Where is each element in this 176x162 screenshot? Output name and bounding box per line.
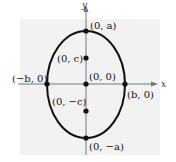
y-axis-label: y: [81, 0, 88, 10]
label-top-vertex: (0, a): [90, 20, 117, 31]
label-center: (0, 0): [89, 71, 116, 82]
label-bottom-vertex: (0, −a): [89, 141, 124, 152]
point-focus-lower: [83, 108, 88, 113]
point-right-covertex: [122, 81, 127, 86]
point-top-vertex: [83, 28, 88, 33]
point-bottom-vertex: [83, 135, 88, 140]
label-left-covertex: (−b, 0): [12, 73, 47, 84]
label-focus-upper: (0, c): [57, 53, 83, 64]
point-focus-upper: [83, 55, 88, 60]
point-center: [83, 81, 88, 86]
x-axis-label: x: [161, 79, 166, 89]
label-right-covertex: (b, 0): [127, 89, 154, 100]
label-focus-lower: (0, −c): [52, 96, 87, 107]
ellipse-diagram: x y (0, a) (0, c) (0, 0) (−b, 0) (b, 0) …: [0, 0, 176, 162]
background-panel: [20, 19, 160, 155]
